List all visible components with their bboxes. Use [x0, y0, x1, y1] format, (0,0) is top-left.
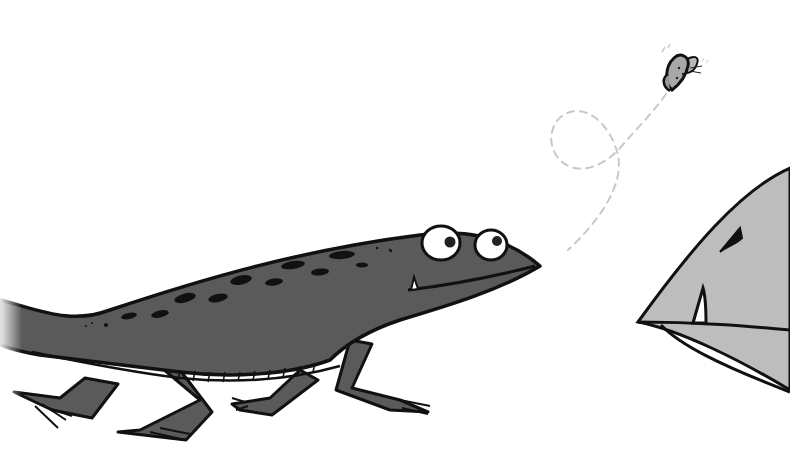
illustration-canvas [0, 0, 790, 472]
creature-head [638, 168, 790, 392]
flight-path [551, 94, 666, 250]
butterfly-icon [662, 44, 709, 91]
newt [0, 226, 540, 440]
illustration-scene [0, 0, 790, 472]
